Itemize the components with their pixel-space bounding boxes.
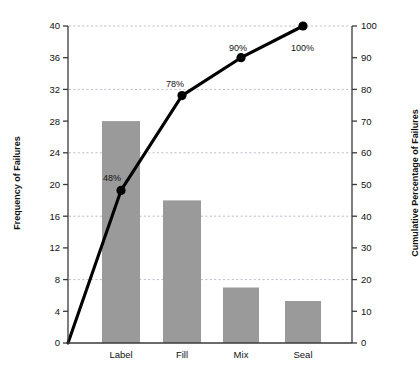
y-axis-left-tick-label: 16 — [49, 211, 60, 222]
line-marker[interactable] — [116, 186, 125, 195]
x-axis-label-seal: Seal — [293, 349, 312, 360]
point-label: 78% — [166, 79, 184, 89]
y-axis-left-tick-label: 12 — [49, 242, 60, 253]
y-axis-right-tick-label: 40 — [361, 211, 372, 222]
y-axis-right-tick-label: 50 — [361, 179, 372, 190]
y-axis-right-tick-label: 10 — [361, 306, 372, 317]
pareto-chart: Frequency of Failures Cumulative Percent… — [0, 0, 420, 387]
y-axis-right-tick-label: 70 — [361, 116, 372, 127]
line-marker[interactable] — [298, 21, 307, 30]
y-axis-right-tick-label: 90 — [361, 52, 372, 63]
y-axis-right-tick-label: 60 — [361, 147, 372, 158]
point-label: 100% — [291, 43, 314, 53]
y-axis-left-tick-label: 20 — [49, 179, 60, 190]
x-axis-label-fill: Fill — [176, 349, 188, 360]
y-axis-right-tick-label: 20 — [361, 274, 372, 285]
x-axis-label-mix: Mix — [234, 349, 249, 360]
line-marker[interactable] — [177, 91, 186, 100]
line-marker[interactable] — [236, 53, 245, 62]
x-axis-label-label: Label — [109, 349, 132, 360]
y-axis-left-tick-label: 32 — [49, 84, 60, 95]
y-axis-left-tick-label: 0 — [55, 337, 60, 348]
bar-seal[interactable] — [285, 301, 321, 343]
y-axis-right-tick-label: 0 — [361, 337, 366, 348]
y-axis-right-tick-label: 80 — [361, 84, 372, 95]
y-axis-left-tick-label: 24 — [49, 147, 60, 158]
bar-fill[interactable] — [163, 200, 201, 343]
y-axis-right-tick-label: 30 — [361, 242, 372, 253]
y-axis-right-tick-label: 100 — [361, 20, 377, 31]
y-axis-left-tick-label: 28 — [49, 116, 60, 127]
y-axis-left-tick-label: 4 — [55, 306, 60, 317]
bar-mix[interactable] — [223, 288, 259, 344]
point-label: 90% — [229, 43, 247, 53]
point-label: 48% — [103, 173, 121, 183]
y-axis-left-tick-label: 8 — [55, 274, 60, 285]
y-axis-left-tick-label: 40 — [49, 20, 60, 31]
chart-plot-area: 48%78%90%100%403632282420161284010090807… — [0, 0, 420, 387]
y-axis-left-tick-label: 36 — [49, 52, 60, 63]
